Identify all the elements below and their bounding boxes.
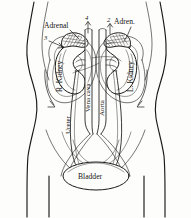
- body-outline-right-inner: [145, 2, 152, 80]
- body-outline-right: [155, 2, 166, 217]
- aorta-top: [99, 29, 106, 31]
- label-vena-cava: Vena cava: [84, 83, 92, 112]
- label-adrenal-left: Adren.: [114, 17, 135, 26]
- label-aorta: Aorta: [98, 99, 106, 116]
- anatomical-figure: Adrenal Adren. R. Kidney L. Kidney Vena …: [0, 0, 191, 218]
- renal-artery-left-b: [106, 65, 117, 68]
- label-bladder: Bladder: [78, 172, 103, 181]
- renal-artery-left: [106, 60, 116, 62]
- renal-vein-right-b: [75, 65, 85, 68]
- marker-2-number: 2: [107, 16, 111, 23]
- body-outline-left: [27, 2, 37, 217]
- adrenal-left: [104, 33, 131, 47]
- marker-3-number: 3: [43, 34, 48, 41]
- fascia-arrowhead-right: [137, 101, 144, 107]
- label-ureter: Ureter: [64, 115, 72, 134]
- vena-cava-top: [85, 29, 92, 31]
- label-adrenal-right: Adrenal: [44, 21, 68, 30]
- urinary-system-plate: Adrenal Adren. R. Kidney L. Kidney Vena …: [0, 0, 191, 218]
- renal-vein-right: [76, 60, 85, 62]
- fascia-arrowhead-left: [48, 101, 55, 107]
- marker-4-number: 4: [85, 14, 89, 21]
- aorta: [97, 30, 99, 134]
- label-kidney-right: R. Kidney: [55, 61, 64, 92]
- label-kidney-left: L. Kidney: [126, 61, 135, 92]
